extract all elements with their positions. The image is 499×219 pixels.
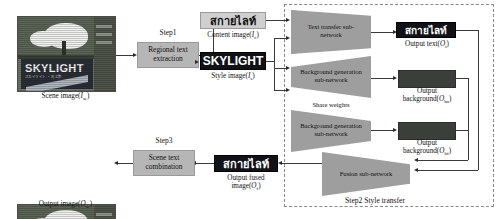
arrowhead-fusion-input-upper: [414, 158, 418, 162]
content-image-chip: สกายไลท์: [200, 12, 266, 29]
connector-textnet-to-output-text: [371, 32, 393, 33]
bg-bottom-line2: sub-network: [315, 130, 348, 137]
text-transfer-line1: Text transfer sub-: [308, 23, 354, 30]
connector-style-out: [266, 61, 274, 62]
arrowhead-content-to-text-net: [286, 18, 290, 22]
output-fused-caption-close: ): [258, 182, 260, 190]
output-bgb-caption-line2: background(: [403, 147, 439, 155]
text-transfer-subnetwork[interactable]: Text transfer sub- network: [291, 10, 371, 54]
connector-scene-to-step1: [116, 55, 133, 56]
step1-box-line2: extraction: [148, 55, 188, 64]
connector-style-to-bg-bottom: [274, 90, 286, 91]
content-image-caption-close: ): [256, 31, 258, 39]
output-text-caption: Output text(Ot): [392, 40, 462, 51]
style-image-caption: Style image(Is): [196, 72, 270, 83]
scene-image-caption: Scene image(Ise): [17, 92, 114, 103]
feedback-output-bga-vertical: [468, 78, 469, 160]
background-generation-top-label: Background generation sub-network: [291, 68, 371, 83]
scene-image-caption-close: ): [87, 92, 89, 100]
step1-label: Step1: [137, 28, 199, 37]
output-image-caption-text: Output image(: [39, 200, 81, 208]
arrowhead-output-bgb: [393, 128, 397, 132]
share-weights-text: Share weights: [312, 101, 349, 108]
content-image-caption: Content image(Ic): [192, 31, 274, 42]
feedback-output-bga-right: [454, 78, 468, 79]
output-background-a-caption: Output background(Oba): [392, 87, 462, 106]
background-generation-subnetwork-bottom[interactable]: Background generation sub-network: [291, 110, 371, 152]
connector-style-to-text-net: [274, 38, 286, 39]
connector-step3-to-output: [118, 163, 133, 164]
output-bga-caption-close: ): [449, 95, 451, 103]
output-fused-caption-line2: image(: [231, 182, 251, 190]
bg-bottom-line1: Background generation: [300, 122, 362, 129]
output-fused-chip: สกายไลท์: [214, 155, 278, 172]
content-image-caption-text: Content image(: [207, 31, 252, 39]
feedback-output-bgb-right: [454, 130, 468, 131]
content-image-text: สกายไลท์: [210, 12, 256, 29]
connector-content-out: [266, 20, 286, 21]
style-image-text: SKYLIGHT: [203, 54, 264, 68]
arrowhead-style-to-bg-top: [286, 66, 290, 70]
scene-image-caption-text: Scene image(: [42, 92, 81, 100]
style-image-chip: SKYLIGHT: [200, 52, 266, 70]
output-text-chip: สกายไลท์: [396, 22, 456, 38]
output-bgb-caption-close: ): [449, 147, 451, 155]
fusion-subnetwork[interactable]: Fusion sub-network: [322, 152, 410, 196]
arrowhead-style-to-text-net: [286, 36, 290, 40]
output-image-caption-close: ): [90, 200, 92, 208]
output-bgb-caption-line1: Output: [392, 139, 462, 147]
feedback-output-bga-to-fusion: [418, 160, 468, 161]
fusion-subnetwork-label: Fusion sub-network: [322, 170, 410, 178]
fusion-line1: Fusion sub-network: [340, 170, 393, 177]
arrowhead-output-image: [114, 161, 118, 165]
background-generation-subnetwork-top[interactable]: Background generation sub-network: [291, 56, 371, 98]
output-text-value: สกายไลท์: [405, 23, 447, 38]
connector-bgbottom-to-output-bgb: [371, 130, 393, 131]
bg-top-line1: Background generation: [300, 68, 362, 75]
step2-label: Step2 Style transfer: [300, 196, 450, 205]
feedback-output-text-vertical: [478, 30, 479, 170]
step3-label: Step3: [133, 136, 195, 145]
connector-style-to-bg-top: [274, 68, 286, 69]
connector-fused-to-step3: [196, 163, 214, 164]
bg-top-line2: sub-network: [315, 76, 348, 83]
arrowhead-fused-image: [278, 161, 282, 165]
output-text-caption-close: ): [447, 40, 449, 48]
step3-box[interactable]: Scene text combination: [133, 150, 195, 176]
arrowhead-output-bga: [393, 76, 397, 80]
text-transfer-line2: network: [320, 31, 342, 38]
output-fused-caption: Output fused image(Of): [206, 174, 286, 193]
output-fused-caption-line1: Output fused: [206, 174, 286, 182]
arrowhead-step1-to-style: [195, 60, 199, 64]
output-text-caption-text: Output text(: [405, 40, 440, 48]
connector-fusion-to-fused: [282, 163, 322, 164]
background-generation-bottom-label: Background generation sub-network: [291, 122, 371, 137]
figure-canvas: SKYLIGHT スカイライト ・ 光と影 Scene image(Ise) S…: [0, 0, 499, 219]
step1-box[interactable]: Regional text extraction: [137, 42, 199, 68]
output-bga-caption-line2: background(: [403, 95, 439, 103]
scene-image-thumbnail: SKYLIGHT スカイライト ・ 光と影: [17, 16, 116, 92]
style-image-caption-close: ): [252, 72, 254, 80]
arrowhead-fusion-input-lower: [414, 168, 418, 172]
feedback-output-text-right: [456, 30, 478, 31]
step3-box-line2: combination: [146, 163, 183, 172]
output-background-b-chip: [398, 122, 456, 140]
arrowhead-style-to-bg-bottom: [286, 88, 290, 92]
text-transfer-subnetwork-label: Text transfer sub- network: [291, 23, 371, 38]
output-fused-text: สกายไลท์: [223, 155, 269, 172]
output-background-a-chip: [398, 70, 456, 88]
style-image-caption-text: Style image(: [211, 72, 248, 80]
output-bga-caption-line1: Output: [392, 87, 462, 95]
output-image-caption: Output image(Ose): [14, 200, 117, 211]
connector-bgtop-to-output-bga: [371, 78, 393, 79]
feedback-output-text-to-fusion: [418, 170, 478, 171]
connector-style-bus-vertical: [274, 38, 275, 90]
output-background-b-caption: Output background(Obf): [392, 139, 462, 158]
